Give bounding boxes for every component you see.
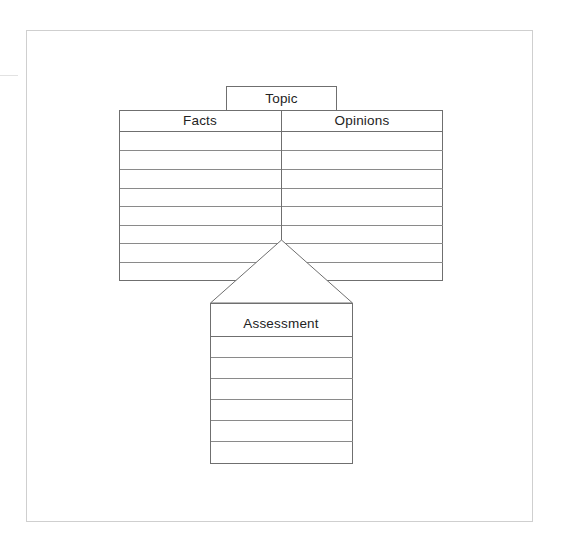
graphic-organizer-diagram: [0, 0, 562, 550]
assessment-box-header: Assessment: [210, 313, 352, 335]
topic-box-label: Topic: [226, 88, 337, 109]
facts-column-header: Facts: [119, 110, 281, 132]
opinions-column-header: Opinions: [281, 110, 443, 132]
